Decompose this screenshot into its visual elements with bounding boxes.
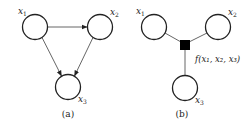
node-x2 — [88, 15, 113, 40]
panel-a-directed-graph: x1 x2 x3 (a) — [18, 6, 119, 119]
graphical-model-diagram: x1 x2 x3 (a) x1 x2 x3 f(x₁, x₂, x₃) — [0, 0, 250, 130]
label-factor-f: f(x₁, x₂, x₃) — [194, 54, 240, 64]
node-x3 — [173, 76, 198, 101]
edge-x1-f — [165, 33, 181, 42]
edge-x2-f — [189, 33, 207, 42]
factor-node-f — [180, 40, 190, 50]
node-x3 — [56, 75, 81, 100]
label-x3: x3 — [78, 94, 87, 105]
label-x3: x3 — [195, 95, 204, 106]
node-x1 — [23, 15, 48, 40]
node-x1 — [142, 15, 167, 40]
panel-b-factor-graph: x1 x2 x3 f(x₁, x₂, x₃) (b) — [136, 6, 240, 119]
edge-x2-to-x3 — [75, 38, 94, 77]
label-x2: x2 — [110, 7, 119, 18]
caption-a: (a) — [62, 109, 74, 119]
node-x2 — [206, 15, 231, 40]
label-x2: x2 — [228, 7, 237, 18]
label-x1: x1 — [18, 6, 27, 17]
caption-b: (b) — [176, 109, 189, 119]
label-x1: x1 — [136, 6, 145, 17]
edge-x1-to-x3 — [42, 38, 62, 77]
